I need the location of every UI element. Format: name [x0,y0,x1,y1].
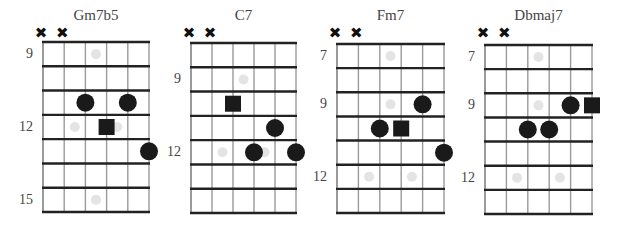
fret-inlay-dot [534,52,544,62]
fretboard-grid [0,0,618,228]
finger-dot [562,96,580,114]
fret-inlay-dot [534,100,544,110]
root-note-square [584,97,600,113]
fret-inlay-dot [512,173,522,183]
finger-dot [540,121,558,139]
fret-inlay-dot [555,173,565,183]
finger-dot [519,121,537,139]
